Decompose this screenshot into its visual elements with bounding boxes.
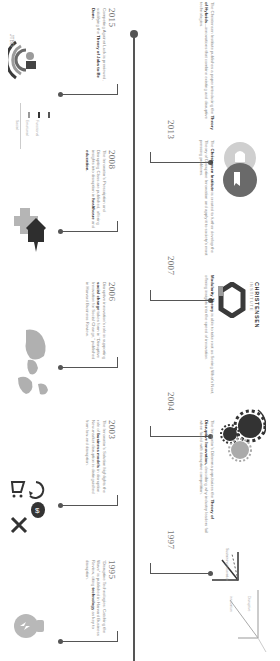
- tick-2007: [150, 290, 151, 301]
- tick-2013: [150, 152, 151, 163]
- jtbd-badge: JTBD: [6, 34, 24, 47]
- event-description: Disruptive innovation’s role in supporti…: [85, 282, 107, 362]
- world-map-icon: [8, 326, 58, 404]
- christensen-institute-logo: [218, 282, 246, 318]
- tick-2006: [117, 357, 118, 368]
- year-label: 2003: [107, 420, 117, 500]
- year-label: 2004: [166, 392, 176, 482]
- text-2004: 2004: [166, 392, 176, 482]
- event-description: Competing Against Luck is previewed, sol…: [90, 8, 107, 88]
- tick-2003: [117, 495, 118, 506]
- connector-2006: [60, 367, 118, 368]
- description-2004: Modularity Theory is able to take root a…: [204, 275, 215, 395]
- year-label: 2013: [166, 120, 176, 210]
- connector-dot-2015: [58, 92, 63, 97]
- connector-dot-2008: [58, 229, 63, 234]
- year-label: 2006: [107, 282, 117, 362]
- tick-1997: [150, 563, 151, 574]
- legend-functional: Functional: [35, 120, 39, 136]
- description-1997: The Innovator’s Dilemma popularizes the …: [198, 420, 215, 540]
- year-label: 2015: [107, 8, 117, 88]
- tick-2015: [117, 84, 118, 95]
- event-description: The Innovator’s Prescription and Disrupt…: [85, 150, 107, 230]
- tick-2008: [117, 221, 118, 232]
- event-description: “Disruptive Technologies: Catching the W…: [85, 560, 107, 640]
- timeline-axis: [133, 34, 135, 661]
- year-label: 2007: [166, 256, 176, 346]
- gears-icon: [218, 404, 266, 470]
- year-label: 1997: [166, 530, 176, 620]
- text-2015: 2015 Competing Against Luck is previewed…: [90, 8, 117, 88]
- text-2006: 2006 Disruptive innovation’s role in sup…: [85, 282, 117, 362]
- tick-2004: [150, 426, 151, 437]
- text-2003: 2003 The Innovator’s Solution highlights…: [85, 420, 117, 500]
- description-2013: The Christensen Institute publishes a pa…: [198, 2, 215, 132]
- description-2007: The Christensen Institute is created to …: [198, 140, 215, 260]
- chart-label-sustaining: Sustaining innovation: [222, 548, 240, 581]
- svg-text:$: $: [35, 506, 40, 515]
- connector-dot-1995: [58, 639, 63, 644]
- lightbulb-icon: [12, 610, 46, 646]
- connector-1995: [60, 641, 118, 642]
- hybrid-icon: [218, 140, 262, 202]
- connector-2008: [60, 231, 118, 232]
- text-2008: 2008 The Innovator’s Prescription and Di…: [85, 150, 117, 230]
- tick-1995: [117, 631, 118, 642]
- legend-swatch-functional: [48, 112, 50, 118]
- business-model-icons: $: [8, 478, 50, 538]
- text-2013: 2013: [166, 120, 176, 210]
- legend-swatch-emotional: [38, 112, 40, 118]
- text-1995: 1995 “Disruptive Technologies: Catching …: [85, 560, 117, 640]
- legend-swatch-social: [28, 112, 30, 118]
- legend-emotional: Emotional: [25, 120, 29, 136]
- year-label: 2008: [107, 150, 117, 230]
- connector-2015: [60, 94, 118, 95]
- connector-2007: [150, 300, 210, 301]
- connector-1997: [150, 573, 210, 574]
- text-2007: 2007: [166, 256, 176, 346]
- legend-social: Social: [15, 120, 19, 130]
- event-description: The Innovator’s Solution highlights the …: [85, 420, 107, 500]
- year-label: 1995: [107, 560, 117, 640]
- healthcare-education-icon: [14, 208, 48, 252]
- connector-dot-2003: [58, 503, 63, 508]
- connector-dot-2006: [58, 365, 63, 370]
- connector-2003: [60, 505, 118, 506]
- christensen-logo-text: CHRISTENSEN INSTITUTE: [249, 282, 260, 328]
- chart-label-disruptive: Disruptive innovation: [226, 596, 262, 614]
- text-1997: 1997: [166, 530, 176, 620]
